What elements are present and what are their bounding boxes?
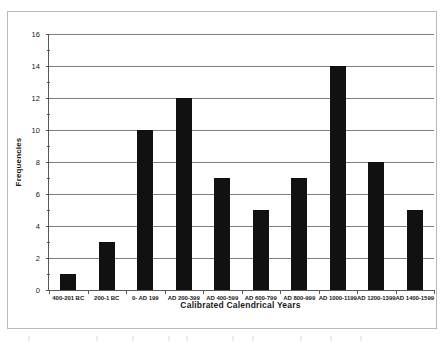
bar [176, 98, 192, 290]
y-axis-title: Frequencies [14, 138, 23, 187]
y-axis-tick-label: 2 [36, 254, 40, 263]
bar [330, 66, 346, 290]
y-axis-tick-label: 4 [36, 222, 40, 231]
x-axis-ticks [49, 290, 434, 294]
scan-speck [186, 336, 188, 341]
scan-noise-band [0, 334, 443, 343]
bar [407, 210, 423, 290]
bar [291, 178, 307, 290]
y-axis-tick-label: 16 [31, 30, 40, 39]
scan-speck [232, 336, 234, 341]
scan-speck [300, 336, 302, 341]
x-axis-tick [242, 290, 243, 294]
y-axis-tick-label: 10 [31, 126, 40, 135]
scan-speck [168, 336, 170, 341]
scan-speck [330, 336, 332, 341]
x-axis-tick [165, 290, 166, 294]
scan-speck [96, 336, 98, 341]
y-axis-tick-label: 6 [36, 190, 40, 199]
bar [368, 162, 384, 290]
scan-speck [28, 336, 30, 341]
figure-root: 0246810121416 400-201 BC200-1 BC0- AD 19… [0, 0, 443, 343]
y-axis-tick-label: 14 [31, 62, 40, 71]
bar [60, 274, 76, 290]
x-axis-title: Calibrated Calendrical Years [48, 300, 433, 310]
x-axis-tick [280, 290, 281, 294]
x-axis-tick [203, 290, 204, 294]
chart-object-frame: 0246810121416 400-201 BC200-1 BC0- AD 19… [7, 11, 437, 329]
bar [253, 210, 269, 290]
bar-series [49, 34, 434, 290]
bar [214, 178, 230, 290]
x-axis-tick [357, 290, 358, 294]
plot-area: 0246810121416 400-201 BC200-1 BC0- AD 19… [48, 34, 434, 291]
scan-speck [132, 336, 134, 341]
y-axis-tick-label: 12 [31, 94, 40, 103]
bar [137, 130, 153, 290]
y-axis-tick-labels: 0246810121416 [39, 34, 40, 290]
x-axis-tick [319, 290, 320, 294]
scan-speck [360, 336, 362, 341]
x-axis-tick [49, 290, 50, 294]
scan-speck [252, 336, 254, 341]
x-axis-tick [126, 290, 127, 294]
x-axis-tick [88, 290, 89, 294]
x-axis-tick [434, 290, 435, 294]
y-axis-tick-label: 0 [36, 286, 40, 295]
x-axis-tick [396, 290, 397, 294]
bar [99, 242, 115, 290]
y-axis-tick-label: 8 [36, 158, 40, 167]
